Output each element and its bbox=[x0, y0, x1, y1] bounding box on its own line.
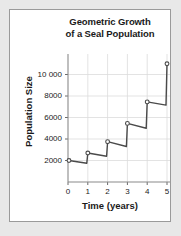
data-point-marker bbox=[67, 159, 71, 163]
y-tick-label: 2000 bbox=[20, 156, 62, 165]
y-tick-label: 4000 bbox=[20, 134, 62, 143]
data-markers bbox=[67, 62, 169, 163]
x-tick-label: 4 bbox=[141, 187, 153, 196]
data-point-marker bbox=[86, 151, 90, 155]
x-tick-label: 3 bbox=[121, 187, 133, 196]
x-tick-label: 5 bbox=[161, 187, 173, 196]
axis-ticks bbox=[65, 75, 167, 186]
data-point-marker bbox=[165, 62, 169, 66]
figure-card: Geometric Growth of a Seal Population Ge… bbox=[9, 9, 171, 222]
data-point-marker bbox=[126, 122, 130, 126]
y-tick-label: 8000 bbox=[20, 91, 62, 100]
x-tick-label: 1 bbox=[82, 187, 94, 196]
y-tick-label: 10 000 bbox=[20, 70, 62, 79]
data-series-line bbox=[69, 64, 167, 163]
y-tick-label: 6000 bbox=[20, 113, 62, 122]
data-point-marker bbox=[145, 100, 149, 104]
x-tick-label: 2 bbox=[102, 187, 114, 196]
x-tick-label: 0 bbox=[62, 187, 74, 196]
data-point-marker bbox=[106, 140, 110, 144]
